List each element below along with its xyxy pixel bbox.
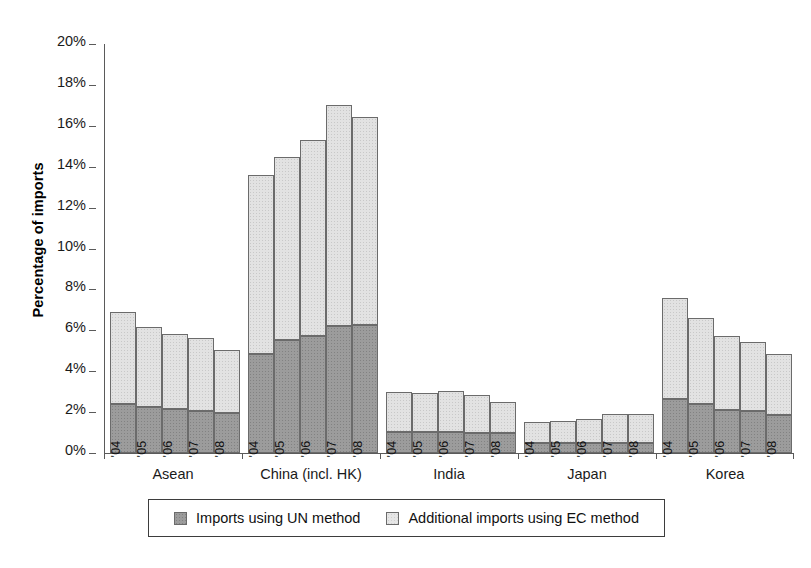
- stacked-bar[interactable]: '07: [740, 342, 766, 453]
- bar-year-label: '05: [549, 441, 563, 458]
- stacked-bar[interactable]: '06: [438, 391, 464, 453]
- y-axis-tick-mark: [89, 208, 96, 209]
- stacked-bar[interactable]: '05: [412, 393, 438, 453]
- y-axis-tick-mark: [89, 85, 96, 86]
- bar-segment-ec: [326, 105, 352, 326]
- stacked-bar[interactable]: '07: [464, 395, 490, 453]
- bar-year-label: '05: [273, 441, 287, 458]
- bar-segment-ec: [412, 393, 438, 432]
- stacked-bar[interactable]: '04: [524, 422, 550, 453]
- stacked-bar[interactable]: '07: [326, 105, 352, 453]
- y-axis-tick-mark: [89, 453, 96, 454]
- stacked-bar[interactable]: '08: [766, 354, 792, 453]
- bar-segment-ec: [576, 419, 602, 443]
- bar-year-label: '08: [627, 441, 641, 458]
- bar-segment-ec: [214, 350, 240, 413]
- bar-segment-ec: [464, 395, 490, 433]
- x-axis-group-tick: [518, 453, 519, 459]
- legend-label: Imports using UN method: [196, 510, 360, 526]
- legend-swatch-ec-icon: [386, 512, 399, 525]
- bar-segment-ec: [438, 391, 464, 432]
- bar-year-label: '08: [351, 441, 365, 458]
- bar-year-label: '04: [661, 441, 675, 458]
- bar-segment-ec: [766, 354, 792, 415]
- y-axis-tick-label: 0%: [65, 442, 86, 458]
- bar-year-label: '04: [109, 441, 123, 458]
- stacked-bar[interactable]: '07: [602, 414, 628, 453]
- stacked-bar[interactable]: '08: [628, 414, 654, 453]
- y-axis-tick-label: 14%: [57, 156, 86, 172]
- y-axis-tick-mark: [89, 371, 96, 372]
- y-axis-tick-mark: [89, 412, 96, 413]
- stacked-bar[interactable]: '05: [136, 327, 162, 453]
- stacked-bar[interactable]: '04: [386, 392, 412, 453]
- stacked-bar[interactable]: '07: [188, 338, 214, 453]
- stacked-bar[interactable]: '04: [110, 312, 136, 453]
- y-axis-tick: 8%: [0, 289, 96, 290]
- y-axis-tick: 4%: [0, 371, 96, 372]
- x-axis-category-label: Japan: [518, 466, 656, 482]
- x-axis-category-label: Korea: [656, 466, 794, 482]
- bar-segment-ec: [662, 298, 688, 399]
- y-axis-tick-mark: [89, 44, 96, 45]
- stacked-bar[interactable]: '05: [274, 156, 300, 453]
- bar-year-label: '05: [411, 441, 425, 458]
- bar-year-label: '07: [739, 441, 753, 458]
- stacked-bar[interactable]: '04: [662, 298, 688, 453]
- bar-year-label: '07: [463, 441, 477, 458]
- y-axis-tick-label: 16%: [57, 115, 86, 131]
- y-axis-tick-label: 10%: [57, 238, 86, 254]
- stacked-bar[interactable]: '05: [550, 421, 576, 453]
- stacked-bar[interactable]: '06: [576, 419, 602, 453]
- x-axis-category-label: Asean: [104, 466, 242, 482]
- bar-groups: '04'05'06'07'08Asean'04'05'06'07'08China…: [104, 44, 794, 453]
- y-axis-tick-label: 12%: [57, 197, 86, 213]
- stacked-bar[interactable]: '08: [214, 350, 240, 453]
- bar-group: '04'05'06'07'08Asean: [104, 44, 242, 453]
- bar-segment-ec: [248, 175, 274, 354]
- y-axis-tick-mark: [89, 167, 96, 168]
- bar-segment-un: [274, 340, 300, 453]
- x-axis-group-tick: [793, 453, 794, 459]
- bar-year-label: '06: [299, 441, 313, 458]
- bar-year-label: '06: [437, 441, 451, 458]
- y-axis-tick: 0%: [0, 453, 96, 454]
- stacked-bar[interactable]: '06: [162, 334, 188, 453]
- stacked-bar[interactable]: '08: [352, 117, 378, 453]
- bar-segment-un: [300, 336, 326, 453]
- stacked-bar[interactable]: '04: [248, 175, 274, 453]
- y-axis-tick-label: 4%: [65, 360, 86, 376]
- y-axis-tick-mark: [89, 249, 96, 250]
- bar-year-label: '08: [489, 441, 503, 458]
- y-axis-tick-label: 6%: [65, 319, 86, 335]
- bar-year-label: '05: [687, 441, 701, 458]
- legend-label: Additional imports using EC method: [408, 510, 639, 526]
- y-axis-tick-label: 20%: [57, 33, 86, 49]
- bar-year-label: '06: [575, 441, 589, 458]
- bar-year-label: '06: [713, 441, 727, 458]
- legend-item[interactable]: Additional imports using EC method: [386, 510, 639, 526]
- legend-item[interactable]: Imports using UN method: [174, 510, 360, 526]
- y-axis-tick: 12%: [0, 208, 96, 209]
- y-axis-tick-mark: [89, 126, 96, 127]
- bar-year-label: '07: [325, 441, 339, 458]
- y-axis-tick: 6%: [0, 330, 96, 331]
- bar-segment-ec: [110, 312, 136, 404]
- bar-year-label: '04: [247, 441, 261, 458]
- y-axis-tick: 18%: [0, 85, 96, 86]
- bar-segment-ec: [352, 117, 378, 326]
- bar-segment-ec: [300, 140, 326, 336]
- bar-segment-ec: [688, 318, 714, 404]
- stacked-bar[interactable]: '08: [490, 402, 516, 453]
- y-axis-tick: 20%: [0, 44, 96, 45]
- stacked-bar[interactable]: '05: [688, 318, 714, 453]
- bar-segment-ec: [162, 334, 188, 409]
- stacked-bar[interactable]: '06: [714, 336, 740, 453]
- bar-year-label: '07: [187, 441, 201, 458]
- bar-segment-ec: [602, 414, 628, 443]
- bar-year-label: '04: [523, 441, 537, 458]
- y-axis-tick-label: 18%: [57, 74, 86, 90]
- bar-segment-ec: [550, 421, 576, 442]
- x-axis-category-label: China (incl. HK): [242, 466, 380, 482]
- stacked-bar[interactable]: '06: [300, 140, 326, 453]
